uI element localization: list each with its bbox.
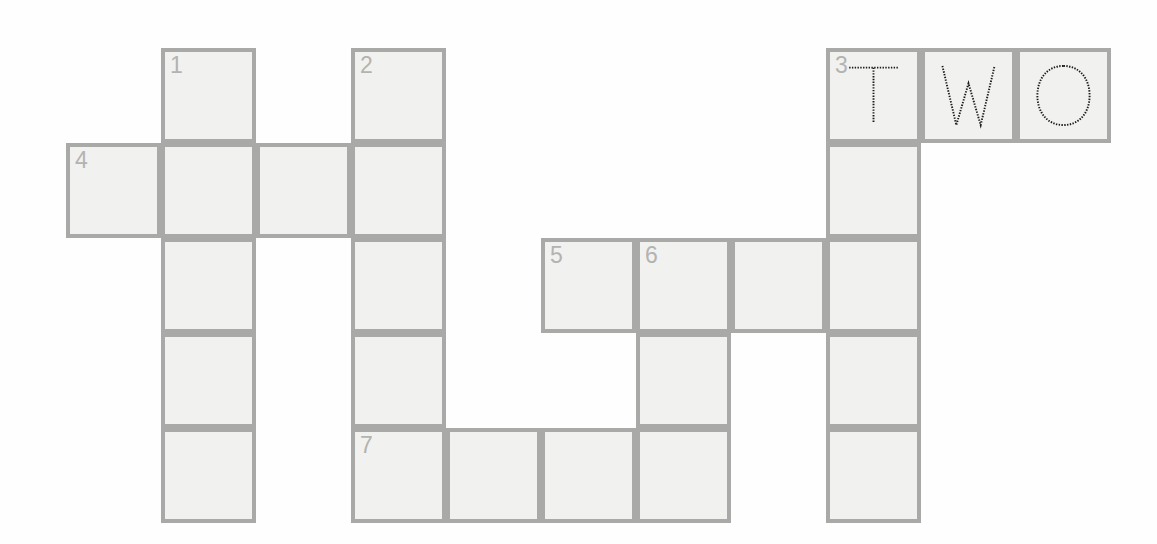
crossword-puzzle: 1234567 (0, 0, 1157, 544)
crossword-cell[interactable] (351, 143, 446, 238)
crossword-cell[interactable]: 3 (826, 48, 921, 143)
crossword-cell[interactable]: 5 (541, 238, 636, 333)
crossword-cell[interactable] (921, 48, 1016, 143)
crossword-cell[interactable] (826, 238, 921, 333)
crossword-cell[interactable] (446, 428, 541, 523)
crossword-cell[interactable] (826, 143, 921, 238)
clue-number-7: 7 (360, 432, 373, 458)
crossword-cell[interactable] (161, 333, 256, 428)
crossword-cell[interactable]: 4 (66, 143, 161, 238)
crossword-cell[interactable] (351, 238, 446, 333)
crossword-cell[interactable]: 1 (161, 48, 256, 143)
crossword-cell[interactable] (1016, 48, 1111, 143)
crossword-cell[interactable] (161, 428, 256, 523)
clue-number-1: 1 (170, 52, 183, 78)
answer-letter-W (925, 52, 1012, 139)
crossword-cell[interactable] (731, 238, 826, 333)
crossword-cell[interactable]: 7 (351, 428, 446, 523)
crossword-cell[interactable]: 2 (351, 48, 446, 143)
clue-number-6: 6 (645, 242, 658, 268)
clue-number-4: 4 (75, 147, 88, 173)
answer-letter-O (1020, 52, 1107, 139)
crossword-cell[interactable] (256, 143, 351, 238)
crossword-cell[interactable] (636, 428, 731, 523)
crossword-cell[interactable]: 6 (636, 238, 731, 333)
crossword-cell[interactable] (161, 238, 256, 333)
crossword-cell[interactable] (161, 143, 256, 238)
crossword-cell[interactable] (826, 428, 921, 523)
clue-number-5: 5 (550, 242, 563, 268)
crossword-cell[interactable] (351, 333, 446, 428)
clue-number-2: 2 (360, 52, 373, 78)
crossword-grid: 1234567 (0, 0, 1157, 544)
clue-number-3: 3 (835, 52, 848, 78)
crossword-cell[interactable] (541, 428, 636, 523)
crossword-cell[interactable] (826, 333, 921, 428)
crossword-cell[interactable] (636, 333, 731, 428)
